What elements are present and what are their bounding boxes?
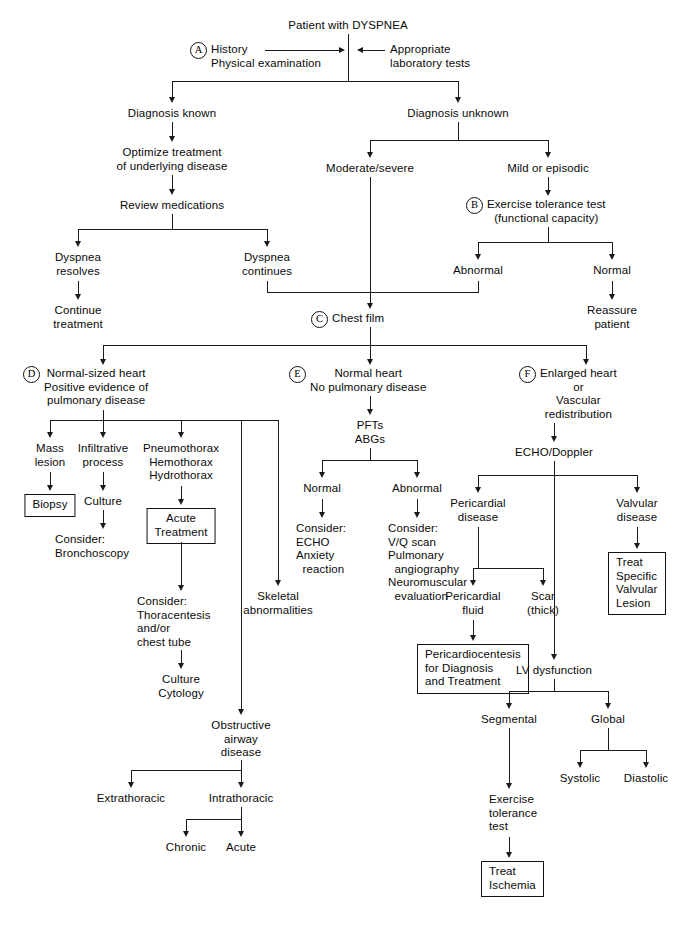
arrow-consider-bronchoscopy	[100, 523, 106, 529]
arrow-intrathoracic	[238, 782, 244, 788]
node-treat-specific-valvular-lesion: Treat Specific Valvular Lesion	[608, 552, 666, 615]
node-pfts-abgs: PFTs ABGs	[355, 419, 385, 446]
arrow-pericardial-fluid	[470, 580, 476, 586]
step-marker-c: C	[311, 311, 328, 328]
node-acute-treatment: Acute Treatment	[147, 508, 216, 544]
connector-review-down	[172, 214, 173, 229]
node-diagnosis-known: Diagnosis known	[128, 107, 216, 121]
node-pericardial-disease: Pericardial disease	[450, 497, 505, 524]
arrow-labs-left	[357, 47, 363, 53]
node-normal-b: Normal	[593, 264, 631, 278]
arrow-systolic	[577, 762, 583, 768]
connector-intrathoracic-split	[241, 807, 242, 819]
connector-bar-e-results	[322, 460, 417, 461]
connector-d-head-down	[103, 410, 104, 420]
arrow-history-right	[339, 47, 345, 53]
node-consider-bronchoscopy: Consider: Bronchoscopy	[55, 533, 129, 560]
connector-normal-e-consider	[322, 499, 323, 513]
connector-skeletal-long	[278, 420, 279, 581]
connector-pfts-down	[370, 448, 371, 460]
step-marker-a: A	[190, 42, 207, 59]
connector-segmental-ett	[509, 728, 510, 784]
arrow-biopsy	[47, 485, 53, 491]
node-culture-cytology: Culture Cytology	[158, 673, 204, 700]
arrow-culture	[100, 485, 106, 491]
node-acute: Acute	[226, 841, 256, 855]
arrow-consider-thoracentesis	[178, 585, 184, 591]
arrow-scar-thick	[540, 580, 546, 586]
arrow-b-ett	[545, 190, 551, 196]
arrow-infiltrative	[100, 432, 106, 438]
arrow-review-meds	[169, 189, 175, 195]
node-diastolic: Diastolic	[624, 772, 668, 786]
node-moderate-severe: Moderate/severe	[326, 162, 414, 176]
connector-culture-bronch	[103, 510, 104, 524]
step-marker-e: E	[289, 366, 306, 383]
connector-labs-arrow	[363, 50, 385, 51]
node-e-normal-heart: Normal heart No pulmonary disease	[310, 367, 426, 394]
arrow-consider-echo	[319, 512, 325, 518]
arrow-abnormal-e	[414, 472, 420, 478]
connector-bar-dyspnea	[78, 229, 267, 230]
connector-bar-lv	[509, 691, 608, 692]
arrow-dx-unknown	[455, 97, 461, 103]
node-global: Global	[591, 713, 625, 727]
connector-unknown-down	[458, 122, 459, 140]
connector-obstructive-long	[241, 420, 242, 710]
arrow-segmental	[506, 703, 512, 709]
arrow-exercise-tolerance-test	[506, 783, 512, 789]
arrow-d-branch	[100, 359, 106, 365]
node-scar-thick: Scar (thick)	[527, 590, 559, 617]
connector-bar-thoracic	[131, 770, 241, 771]
arrow-skeletal	[275, 580, 281, 586]
arrow-moderate-severe	[367, 152, 373, 158]
connector-bar-chronic-acute	[186, 819, 241, 820]
arrow-treat-valvular	[634, 543, 640, 549]
connector-bar-systolic-diastolic	[580, 750, 646, 751]
arrow-global	[605, 703, 611, 709]
connector-bar-d-children	[50, 420, 278, 421]
node-exercise-tolerance-test: Exercise tolerance test	[489, 793, 537, 834]
node-chronic: Chronic	[166, 841, 206, 855]
connector-f-down	[586, 345, 587, 360]
connector-global-split-down	[608, 728, 609, 750]
dyspnea-flowchart: Patient with DYSPNEA A History Physical …	[0, 0, 694, 934]
node-echo-doppler: ECHO/Doppler	[515, 446, 593, 460]
arrow-diastolic	[643, 762, 649, 768]
arrow-optimize	[169, 136, 175, 142]
connector-optimize-review	[172, 175, 173, 190]
arrow-continue-treatment	[75, 294, 81, 300]
node-a-labs: Appropriate laboratory tests	[390, 43, 470, 70]
connector-e-head-down	[370, 396, 371, 410]
node-skeletal-abnormalities: Skeletal abnormalities	[243, 590, 313, 617]
arrow-pfts-abgs	[367, 409, 373, 415]
connector-valvular-treat	[637, 527, 638, 544]
node-infiltrative-process: Infiltrative process	[78, 442, 128, 469]
node-d-normal-sized-heart: Normal-sized heart Positive evidence of …	[44, 367, 148, 408]
step-marker-b: B	[466, 197, 483, 214]
arrow-f-branch	[583, 359, 589, 365]
connector-normal-reassure	[612, 281, 613, 295]
connector-abnormal-merge	[478, 281, 479, 292]
connector-fluid-pericardiocentesis	[473, 620, 474, 636]
arrow-pneumothorax	[178, 432, 184, 438]
arrow-pericardial-disease	[475, 487, 481, 493]
connector-mild-to-b	[548, 177, 549, 191]
arrow-pericardiocentesis	[470, 635, 476, 641]
connector-e-down	[370, 345, 371, 360]
connector-abnormal-e-consider	[417, 499, 418, 513]
node-pericardiocentesis: Pericardiocentesis for Diagnosis and Tre…	[417, 644, 529, 694]
node-diagnosis-unknown: Diagnosis unknown	[407, 107, 508, 121]
node-dyspnea-continues: Dyspnea continues	[242, 251, 292, 278]
connector-infiltrative-culture	[103, 472, 104, 486]
node-valvular-disease: Valvular disease	[616, 497, 658, 524]
node-continue-treatment: Continue treatment	[53, 304, 102, 331]
arrow-dx-known	[169, 97, 175, 103]
connector-dx-unknown-down	[458, 81, 459, 98]
arrow-extrathoracic	[128, 782, 134, 788]
arrow-mass-lesion	[47, 432, 53, 438]
node-abnormal-e: Abnormal	[392, 482, 442, 496]
connector-history-arrow	[265, 50, 339, 51]
node-pneumothorax-group: Pneumothorax Hemothorax Hydrothorax	[143, 442, 219, 483]
arrow-dyspnea-continues	[264, 241, 270, 247]
